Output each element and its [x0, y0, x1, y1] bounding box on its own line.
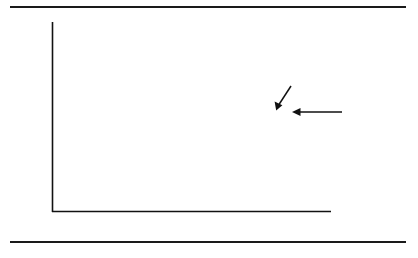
chart-plot-area [0, 0, 418, 258]
annotation-arrows [275, 86, 342, 116]
arrow-head-expected [292, 108, 301, 116]
arrow-head-actual [275, 102, 283, 111]
axis-lines [52, 22, 331, 212]
figure-container [0, 0, 418, 258]
arrow-line-actual [278, 86, 291, 106]
